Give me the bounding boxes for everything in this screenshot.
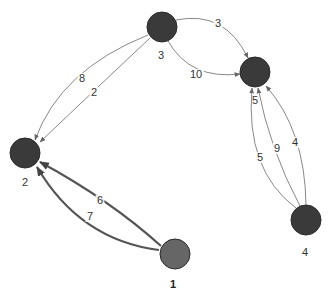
node-label-2: 2 bbox=[22, 176, 28, 188]
edge-weight-label: 9 bbox=[274, 142, 280, 154]
edge-weight-label: 3 bbox=[215, 17, 221, 29]
edge-weight-label: 5 bbox=[257, 151, 263, 163]
node-1[interactable] bbox=[160, 239, 190, 269]
edge-4-to-5 bbox=[266, 86, 306, 205]
node-4[interactable] bbox=[291, 205, 321, 235]
edge-1-to-2 bbox=[37, 167, 159, 250]
edge-labels-group: 3108267594 bbox=[78, 17, 300, 222]
nodes-group bbox=[10, 12, 321, 269]
edge-weight-label: 6 bbox=[97, 194, 103, 206]
node-3[interactable] bbox=[147, 12, 177, 42]
edge-weight-label: 8 bbox=[79, 72, 85, 84]
edge-weight-label: 4 bbox=[292, 136, 298, 148]
edge-weight-label: 10 bbox=[190, 68, 202, 80]
node-label-3: 3 bbox=[158, 49, 164, 61]
node-label-1: 1 bbox=[170, 278, 176, 290]
node-label-5: 5 bbox=[252, 94, 258, 106]
node-5[interactable] bbox=[240, 57, 270, 87]
node-2[interactable] bbox=[10, 138, 40, 168]
edge-weight-label: 7 bbox=[87, 210, 93, 222]
graph-canvas: 3108267594 12345 bbox=[0, 0, 331, 292]
edge-3-to-5 bbox=[176, 18, 248, 58]
edge-weight-label: 2 bbox=[91, 86, 97, 98]
node-label-4: 4 bbox=[302, 246, 308, 258]
edges-group bbox=[35, 18, 306, 250]
